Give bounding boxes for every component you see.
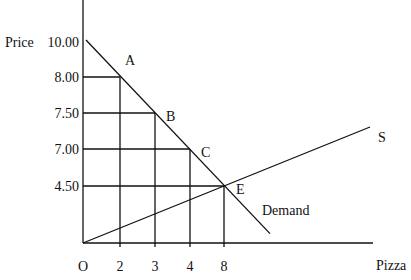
supply-curve: [83, 127, 370, 243]
x-tick-label: 3: [152, 259, 159, 274]
y-tick-label: 7.50: [55, 106, 80, 121]
y-tick-labels: 10.008.007.507.004.50: [48, 35, 80, 194]
x-tick-labels: 2348: [117, 259, 228, 274]
y-tick-label: 10.00: [48, 35, 80, 50]
point-label-e: E: [236, 182, 245, 197]
guide-lines: [83, 77, 224, 247]
x-tick-label: 4: [187, 259, 194, 274]
x-tick-label: 8: [221, 259, 228, 274]
y-tick-label: 7.00: [55, 142, 80, 157]
point-labels: ABCE: [125, 53, 245, 197]
point-label-a: A: [125, 53, 136, 68]
origin-label: O: [78, 259, 88, 274]
y-tick-label: 4.50: [55, 179, 80, 194]
supply-label: S: [378, 130, 386, 145]
supply-demand-diagram: Price Pizza O 10.008.007.507.004.50 2348…: [0, 0, 411, 280]
y-axis-label: Price: [5, 35, 34, 50]
demand-label: Demand: [262, 203, 309, 218]
point-label-b: B: [166, 109, 175, 124]
point-label-c: C: [201, 145, 210, 160]
y-tick-label: 8.00: [55, 70, 80, 85]
x-tick-label: 2: [117, 259, 124, 274]
x-axis-label: Pizza: [376, 258, 407, 273]
